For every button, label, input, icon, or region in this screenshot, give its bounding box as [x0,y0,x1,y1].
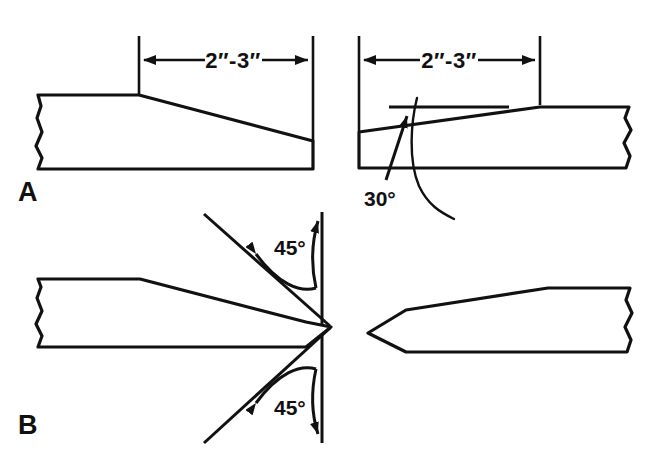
workpiece-b-right [368,288,632,352]
angle-label-45-bottom: 45° [274,396,306,419]
panel-b-left-view: 45° 45° B [18,212,331,443]
panel-b-right-view [368,288,632,352]
panel-label-a: A [18,177,38,207]
angle-45-top-arc-2 [313,221,319,288]
dimension-label-a-right: 2″-3″ [421,48,476,73]
angle-label-45-top: 45° [274,236,306,259]
workpiece-a-left [36,95,313,169]
angle-45-top-arc [256,254,316,289]
panel-a-left-view: 2″-3″ A [18,36,313,207]
angle-45-bottom-arc-2 [313,369,319,434]
panel-a-right-view: 2″-3″ 30° [359,36,631,219]
panel-label-b: B [18,410,38,440]
diagram-canvas: 2″-3″ A 2″-3″ 30° [0,0,667,462]
dimension-label-a-left: 2″-3″ [205,48,260,73]
angle-label-30: 30° [364,187,396,210]
